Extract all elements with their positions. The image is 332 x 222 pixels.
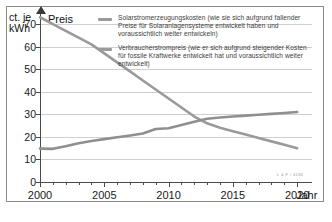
legend-item-consumer-electricity-price: Verbraucherstrompreis (wie er sich aufgr… xyxy=(98,44,314,69)
y-axis-tick-label: 50 xyxy=(2,64,36,74)
legend-item-solar-generation-cost: Solarstromerzeugungskosten (wie sie sich… xyxy=(98,14,314,39)
y-axis-tick xyxy=(36,69,41,70)
x-axis-tick-label: 2005 xyxy=(92,189,116,201)
legend-swatch-icon xyxy=(98,48,112,51)
legend-label: Solarstromerzeugungskosten (wie sie sich… xyxy=(118,14,314,39)
x-axis-tick-minor xyxy=(271,182,272,185)
x-axis-tick-minor xyxy=(143,182,144,185)
y-axis-tick-label: 30 xyxy=(2,109,36,119)
x-axis-tick-label: 2010 xyxy=(156,189,180,201)
gridline xyxy=(40,114,312,115)
y-axis-tick-label: 10 xyxy=(2,154,36,164)
x-axis-tick-label: 2000 xyxy=(28,189,52,201)
x-axis-tick-minor xyxy=(259,182,260,185)
x-axis-tick-minor xyxy=(66,182,67,185)
y-axis-arrow-icon xyxy=(36,6,46,14)
x-axis-tick-minor xyxy=(79,182,80,185)
gridline xyxy=(40,159,312,160)
y-axis-tick xyxy=(36,137,41,138)
legend-swatch-icon xyxy=(98,18,112,21)
y-axis-tick xyxy=(36,92,41,93)
x-axis-tick-minor xyxy=(53,182,54,185)
x-axis-tick-major xyxy=(233,182,234,187)
y-axis-tick xyxy=(36,114,41,115)
x-axis-tick-minor xyxy=(91,182,92,185)
x-axis-tick-minor xyxy=(284,182,285,185)
x-axis-tick-major xyxy=(297,182,298,187)
x-axis-tick-minor xyxy=(117,182,118,185)
x-axis-tick-minor xyxy=(246,182,247,185)
x-axis-tick-minor xyxy=(220,182,221,185)
chart-screenshot: 010203040506070 20002005201020152020 ct.… xyxy=(0,0,332,222)
y-axis-tick-label: 60 xyxy=(2,42,36,52)
x-axis-tick-label: 2015 xyxy=(221,189,245,201)
y-axis-line xyxy=(40,12,41,183)
legend-label: Verbraucherstrompreis (wie er sich aufgr… xyxy=(118,44,314,69)
x-axis-tick-minor xyxy=(207,182,208,185)
x-axis-title: Jahr xyxy=(296,189,317,201)
x-axis-tick-major xyxy=(40,182,41,187)
gridline xyxy=(40,137,312,138)
x-axis-tick-minor xyxy=(181,182,182,185)
y-axis-unit-label: ct. je kWh xyxy=(9,12,31,34)
y-axis-tick xyxy=(36,47,41,48)
y-axis-tick-label: 40 xyxy=(2,87,36,97)
x-axis-tick-minor xyxy=(156,182,157,185)
x-axis-tick-minor xyxy=(194,182,195,185)
y-axis-tick-label: 20 xyxy=(2,132,36,142)
gridline xyxy=(40,92,312,93)
y-axis-tick xyxy=(36,159,41,160)
x-axis-tick-major xyxy=(169,182,170,187)
y-axis-tick xyxy=(36,24,41,25)
x-axis-tick-minor xyxy=(130,182,131,185)
credit-mark: L & F / 4180 xyxy=(277,172,303,177)
legend: Solarstromerzeugungskosten (wie sie sich… xyxy=(98,14,314,73)
y-axis-tick-label: 0 xyxy=(2,177,36,187)
y-axis-title: Preis xyxy=(48,13,73,25)
x-axis-tick-major xyxy=(104,182,105,187)
